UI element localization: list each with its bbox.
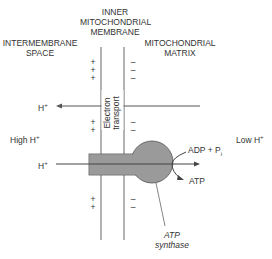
matrix-label: MITOCHONDRIAL MATRIX bbox=[140, 38, 220, 58]
electron-transport-label: Electron transport bbox=[103, 87, 121, 139]
h-plus-top: H+ bbox=[38, 100, 48, 113]
synthase-line: ATP bbox=[150, 230, 194, 240]
membrane-title: INNER MITOCHONDRIAL MEMBRANE bbox=[80, 7, 150, 37]
plus-charges-mid: ++ bbox=[88, 118, 98, 134]
adp-atp-curve bbox=[172, 152, 186, 178]
minus-charges-top: ––– bbox=[128, 58, 138, 82]
high-h-label: High H+ bbox=[10, 132, 40, 145]
region-line: MATRIX bbox=[140, 48, 220, 58]
region-line: SPACE bbox=[0, 48, 80, 58]
title-line: MEMBRANE bbox=[80, 27, 150, 37]
region-line: INTERMEMBRANE bbox=[0, 38, 80, 48]
adp-label: ADP + Pi bbox=[188, 145, 222, 159]
plus-charges-top: +++ bbox=[88, 58, 98, 82]
minus-charges-mid: –– bbox=[128, 118, 138, 134]
h-plus-bottom: H+ bbox=[38, 158, 48, 171]
region-line: MITOCHONDRIAL bbox=[140, 38, 220, 48]
atp-label: ATP bbox=[189, 176, 205, 186]
plus-charges-bottom: ++ bbox=[88, 195, 98, 211]
title-line: INNER bbox=[80, 7, 150, 17]
atp-synthase-shape bbox=[89, 141, 173, 183]
atp-synthase-label: ATP synthase bbox=[150, 230, 194, 250]
synthase-line: synthase bbox=[150, 240, 194, 250]
low-h-label: Low H+ bbox=[236, 132, 264, 145]
arrow-head-right bbox=[194, 162, 200, 167]
title-line: MITOCHONDRIAL bbox=[80, 17, 150, 27]
et-line: transport bbox=[112, 87, 121, 139]
minus-charges-bottom: –– bbox=[128, 195, 138, 211]
synthase-pointer bbox=[156, 183, 165, 226]
arrow-head-left bbox=[56, 104, 62, 109]
intermembrane-label: INTERMEMBRANE SPACE bbox=[0, 38, 80, 58]
